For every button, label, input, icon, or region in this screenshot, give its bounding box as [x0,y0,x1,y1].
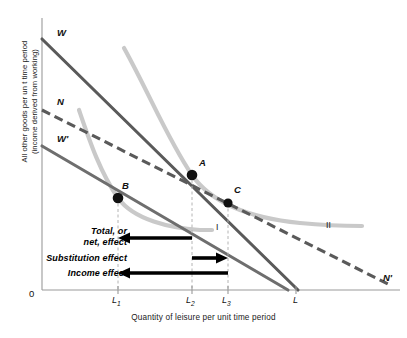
arrow-total-net-effect [118,233,192,244]
x-axis-label: Quantity of leisure per unit time period [0,313,407,322]
arrow-income-effect [118,268,228,279]
tick-label-L: L [293,295,298,305]
label-curve-II: II [326,220,331,230]
indifference-curve-II [124,48,362,226]
diagram-svg [0,0,407,338]
figure-canvas: All other goods per un t time period (in… [0,0,407,338]
label-substitution-effect: Substitution effect [20,253,127,264]
label-curve-I: I [216,222,218,232]
label-point-B: B [122,180,129,191]
arrow-substitution-effect [192,253,228,264]
tick-label-L2: L2 [186,295,195,307]
label-point-C: C [234,184,241,195]
origin-label: 0 [29,288,34,299]
label-point-A: A [199,157,206,168]
point-A-marker [187,170,198,181]
label-N-prime: N' [383,272,392,283]
label-N: N [57,96,64,107]
effect-arrow-group [118,233,228,279]
tick-label-L3: L3 [222,295,231,307]
label-income-effect: Income effect [20,268,127,279]
label-W-prime: W' [57,133,68,144]
tick-label-L1: L1 [112,295,121,307]
label-W: W [57,27,66,38]
point-C-marker [223,198,232,207]
label-total-net-effect: Total, or net, effect [20,226,127,247]
y-axis-label: All other goods per un t time period (in… [20,12,39,192]
point-B-marker [113,193,124,204]
